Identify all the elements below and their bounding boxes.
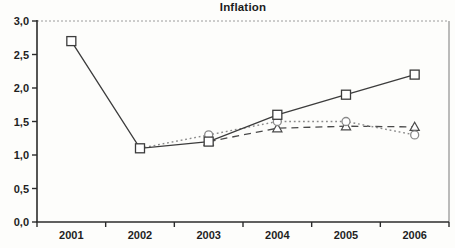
square-marker — [136, 144, 145, 153]
x-axis-label: 2001 — [59, 229, 83, 241]
square-marker — [67, 37, 76, 46]
y-axis-label: 2,0 — [14, 82, 29, 94]
square-marker — [342, 90, 351, 99]
square-marker — [273, 110, 282, 119]
square-marker — [410, 70, 419, 79]
inflation-line-chart: 0,00,51,01,52,02,53,02001200220032004200… — [0, 0, 455, 248]
x-axis-label: 2003 — [196, 229, 220, 241]
x-axis-label: 2004 — [265, 229, 290, 241]
x-axis-label: 2006 — [402, 229, 426, 241]
y-axis-label: 1,5 — [14, 116, 29, 128]
x-axis-label: 2002 — [128, 229, 152, 241]
x-axis-label: 2005 — [334, 229, 358, 241]
y-axis-label: 0,5 — [14, 183, 29, 195]
y-axis-label: 2,5 — [14, 49, 29, 61]
y-axis-label: 0,0 — [14, 216, 29, 228]
circle-marker — [342, 118, 350, 126]
square-marker — [204, 137, 213, 146]
circle-marker — [411, 131, 419, 139]
y-axis-label: 1,0 — [14, 149, 29, 161]
series-line-square — [71, 41, 414, 148]
y-axis-label: 3,0 — [14, 15, 29, 27]
chart: Inflation 0,00,51,01,52,02,53,0200120022… — [0, 0, 455, 248]
